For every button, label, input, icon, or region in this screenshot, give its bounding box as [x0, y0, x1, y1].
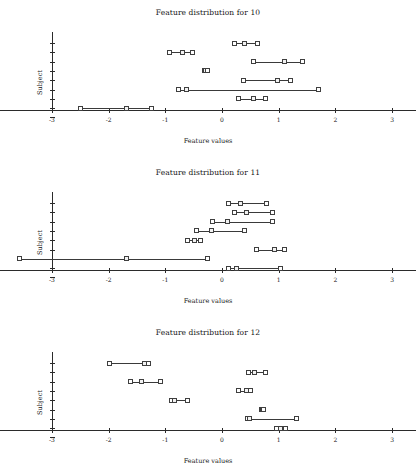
range-line: [130, 382, 160, 383]
subject-series-row: [0, 77, 416, 84]
data-point-max: [242, 228, 247, 233]
data-point-min: [194, 228, 199, 233]
x-axis-tick-label: 3: [382, 116, 402, 123]
data-point-median: [124, 106, 129, 111]
x-axis-tick-label: -2: [99, 116, 119, 123]
data-point-median: [225, 219, 230, 224]
data-point-max: [146, 361, 151, 366]
subject-series-row: [0, 105, 416, 112]
data-point-min: [246, 370, 251, 375]
data-point-max: [190, 50, 195, 55]
subject-series-row: [0, 265, 416, 272]
subject-series-row: [0, 96, 416, 103]
chart-panel-3: Feature distribution for 12 Subject -3-2…: [0, 320, 416, 469]
data-point-max: [278, 266, 283, 271]
x-axis-tick-label: 2: [325, 436, 345, 443]
x-axis-tick-label: 0: [212, 436, 232, 443]
data-point-min: [226, 201, 231, 206]
x-axis-tick-label: -3: [42, 116, 62, 123]
data-point-min: [232, 210, 237, 215]
data-point-min: [251, 59, 256, 64]
x-axis-tick-label: -1: [155, 276, 175, 283]
x-axis-label-1: Feature values: [0, 137, 416, 145]
data-point-min: [226, 266, 231, 271]
subject-series-row: [0, 49, 416, 56]
x-axis-tick-label: 2: [325, 116, 345, 123]
x-axis-tick-label: 0: [212, 276, 232, 283]
data-point-min: [17, 256, 22, 261]
plot-area-3: -3-2-10123: [0, 352, 416, 444]
x-axis-tick-label: -1: [155, 436, 175, 443]
subject-series-row: [0, 200, 416, 207]
data-point-min: [167, 50, 172, 55]
range-line: [179, 90, 319, 91]
subject-series-row: [0, 416, 416, 423]
data-point-max: [149, 106, 154, 111]
range-line: [81, 108, 151, 109]
data-point-median: [282, 59, 287, 64]
chart-panel-2: Feature distribution for 11 Subject -3-2…: [0, 160, 416, 320]
data-point-max: [270, 210, 275, 215]
x-axis-tick-label: 1: [269, 116, 289, 123]
subject-series-row: [0, 228, 416, 235]
data-point-max: [255, 41, 260, 46]
data-point-max: [288, 78, 293, 83]
x-axis-tick-label: 2: [325, 276, 345, 283]
range-line: [253, 62, 302, 63]
data-point-min: [236, 96, 241, 101]
data-point-min: [78, 106, 83, 111]
data-point-median: [251, 96, 256, 101]
range-line: [234, 212, 272, 213]
data-point-median: [209, 228, 214, 233]
chart-panel-1: Feature distribution for 10 Subject -3-2…: [0, 0, 416, 160]
subject-series-row: [0, 388, 416, 395]
subject-series-row: [0, 379, 416, 386]
chart-title-3: Feature distribution for 12: [0, 328, 416, 337]
data-point-median: [180, 50, 185, 55]
x-axis-tick-label: 3: [382, 276, 402, 283]
data-point-median: [275, 78, 280, 83]
data-point-median: [124, 256, 129, 261]
subject-series-row: [0, 407, 416, 414]
data-point-max: [248, 388, 253, 393]
subject-series-row: [0, 40, 416, 47]
data-point-min: [128, 379, 133, 384]
x-axis-label-3: Feature values: [0, 457, 416, 465]
x-axis-tick-label: -2: [99, 436, 119, 443]
chart-title-2: Feature distribution for 11: [0, 168, 416, 177]
subject-series-row: [0, 360, 416, 367]
chart-title-1: Feature distribution for 10: [0, 8, 416, 17]
data-point-median: [247, 416, 252, 421]
data-point-min: [185, 238, 190, 243]
x-axis-tick-label: 1: [269, 436, 289, 443]
data-point-median: [244, 210, 249, 215]
data-point-max: [263, 96, 268, 101]
x-axis-label-2: Feature values: [0, 297, 416, 305]
data-point-median: [238, 201, 243, 206]
data-point-min: [107, 361, 112, 366]
data-point-median: [252, 370, 257, 375]
data-point-median: [172, 398, 177, 403]
data-point-max: [264, 201, 269, 206]
data-point-max: [158, 379, 163, 384]
x-axis-tick-label: 3: [382, 436, 402, 443]
data-point-max: [283, 426, 288, 431]
data-point-max: [270, 219, 275, 224]
data-point-max: [300, 59, 305, 64]
data-point-max: [282, 247, 287, 252]
data-point-max: [263, 370, 268, 375]
subject-series-row: [0, 209, 416, 216]
x-axis-tick-label: 1: [269, 276, 289, 283]
data-point-min: [210, 219, 215, 224]
subject-series-row: [0, 237, 416, 244]
subject-series-row: [0, 369, 416, 376]
range-line: [196, 231, 244, 232]
data-point-median: [184, 87, 189, 92]
subject-series-row: [0, 87, 416, 94]
x-axis-tick-label: -3: [42, 276, 62, 283]
subject-series-row: [0, 247, 416, 254]
subject-series-row: [0, 68, 416, 75]
subject-series-row: [0, 219, 416, 226]
data-point-max: [205, 256, 210, 261]
data-point-min: [236, 388, 241, 393]
